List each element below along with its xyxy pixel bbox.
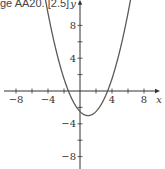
x-axis-arrow-icon [155, 89, 160, 93]
y-axis-label: y [69, 0, 76, 9]
x-tick-label: −4 [41, 94, 56, 105]
x-axis-label: x [156, 94, 162, 105]
x-tick-label: −8 [9, 94, 24, 105]
parabola-chart: −8−44884−4−8xy [0, 0, 165, 169]
y-tick-label: 8 [70, 20, 76, 31]
y-tick-label: 4 [70, 53, 76, 64]
x-tick-label: 4 [109, 94, 115, 105]
x-tick-label: 8 [141, 94, 147, 105]
parabola-curve [45, 0, 132, 116]
axes: −8−44884−4−8xy [4, 0, 162, 169]
y-tick-label: −8 [61, 151, 76, 162]
y-tick-label: −4 [61, 118, 76, 129]
y-axis-arrow-icon [78, 0, 82, 5]
